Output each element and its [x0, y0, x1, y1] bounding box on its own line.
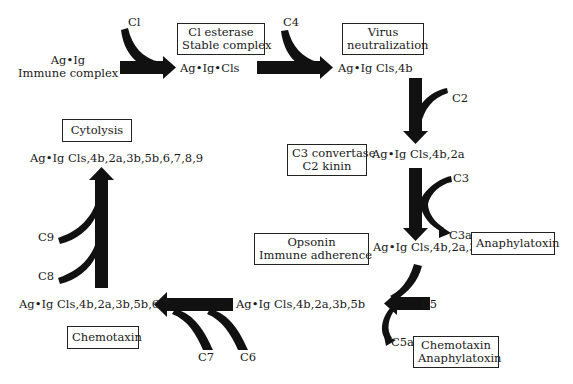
- box-anaphylatoxin-text: Anaphylatoxin: [476, 237, 550, 250]
- box-opsonin: Opsonin Immune adherence: [254, 233, 369, 265]
- box-virus-neutralization: Virus neutralization: [342, 23, 424, 55]
- label-c5a: C5a: [391, 336, 414, 349]
- label-c1: Cl: [128, 16, 140, 29]
- box-chemotaxin-anaphylatoxin: Chemotaxin Anaphylatoxin: [413, 336, 499, 368]
- label-c6: C6: [240, 351, 256, 364]
- node-cls: Ag•Ig•Cls: [180, 62, 240, 75]
- box-chemotaxin-text: Chemotaxin: [72, 331, 134, 344]
- label-c4: C4: [283, 16, 299, 29]
- node-start-line2: Immune complex: [18, 67, 118, 80]
- label-c8: C8: [38, 270, 54, 283]
- box-cytolysis: Cytolysis: [62, 119, 132, 142]
- node-cls-4b-2a-3b: Ag•Ig Cls,4b,2a,3b: [373, 241, 484, 254]
- box-cl-esterase-line2: Stable complex: [182, 39, 260, 52]
- node-cls-4b-2a: Ag•Ig Cls,4b,2a: [372, 148, 465, 161]
- node-cls-4b: Ag•Ig Cls,4b: [338, 62, 413, 75]
- box-c3-convertase: C3 convertase C2 kinin: [287, 144, 367, 176]
- label-c5: C5: [421, 298, 437, 311]
- box-chemotaxin: Chemotaxin: [67, 326, 139, 349]
- node-cls-8-9: Ag•Ig Cls,4b,2a,3b,5b,6,7,8,9: [30, 152, 203, 165]
- node-cls-6-7: Ag•Ig Cls,4b,2a,3b,5b,6,7: [19, 298, 170, 311]
- box-cytolysis-text: Cytolysis: [67, 124, 127, 137]
- box-c3conv-line2: C2 kinin: [292, 160, 362, 173]
- label-c7: C7: [198, 351, 214, 364]
- node-cls-5b: Ag•Ig Cls,4b,2a,3b,5b: [236, 298, 365, 311]
- box-anaphylatoxin: Anaphylatoxin: [471, 232, 555, 255]
- arrow-c1: [120, 28, 176, 79]
- arrow-c3: [403, 168, 452, 241]
- box-cl-esterase: Cl esterase Stable complex: [177, 23, 265, 55]
- box-virus-line2: neutralization: [347, 39, 419, 52]
- label-c9: C9: [38, 231, 54, 244]
- label-c3: C3: [453, 172, 469, 185]
- box-chemo-ana-line2: Anaphylatoxin: [418, 352, 494, 365]
- arrow-c2: [403, 78, 448, 144]
- node-start: Ag•Ig Immune complex: [18, 54, 118, 80]
- label-c2: C2: [452, 92, 468, 105]
- box-opsonin-line2: Immune adherence: [259, 249, 364, 262]
- arrow-c8-c9: [58, 167, 114, 288]
